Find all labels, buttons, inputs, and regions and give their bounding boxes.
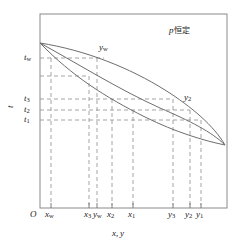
x-tick-label-y2: y2 <box>185 210 192 220</box>
y-tick-label-t1: t1 <box>24 115 30 125</box>
x-tick-sub-x2: 2 <box>111 212 114 219</box>
pressure-constant-note: p恒定 <box>169 26 190 35</box>
x-tick-label-yw: yw <box>93 210 102 220</box>
x-tick-label-xw: xw <box>45 210 54 220</box>
y-tick-sub-t2: 2 <box>27 107 30 114</box>
x-axis-title-y: y <box>120 228 124 238</box>
x-tick-sub-y3: 3 <box>172 212 175 219</box>
y-tick-sub-t3: 3 <box>27 96 30 103</box>
y-tick-label-t3: t3 <box>24 94 30 104</box>
x-tick-label-y1: y1 <box>196 210 203 220</box>
y-axis-title: t <box>6 105 15 108</box>
curve-label-sub-yw: w <box>103 45 108 52</box>
x-tick-sub-y2: 2 <box>189 212 192 219</box>
y-tick-sub-t1: 1 <box>27 117 30 124</box>
x-tick-sub-yw: w <box>97 212 102 219</box>
x-tick-label-x2: x2 <box>107 210 114 220</box>
curve-label-y2: y2 <box>184 93 191 103</box>
curve-label-yw: yw <box>99 43 108 53</box>
x-tick-sub-x3: 3 <box>88 212 91 219</box>
x-tick-label-x1: x1 <box>128 210 135 220</box>
y-tick-sub-tw: w <box>27 55 32 62</box>
x-tick-sub-xw: w <box>49 212 54 219</box>
y-tick-label-tw: tw <box>24 53 31 63</box>
x-tick-label-x3: x3 <box>84 210 91 220</box>
x-axis-title-comma: , <box>116 228 118 238</box>
origin-label-text: O <box>30 209 37 219</box>
horizontal-gridlines <box>40 58 201 120</box>
x-tick-label-y3: y3 <box>168 210 175 220</box>
intermediate-curve <box>40 43 225 145</box>
origin-label: O <box>30 210 37 219</box>
x-axis-ticks <box>51 203 201 208</box>
y-axis-title-text: t <box>5 105 15 108</box>
curve-label-sub-y2: 2 <box>188 95 191 102</box>
x-tick-sub-x1: 1 <box>132 212 135 219</box>
pressure-constant-text: 恒定 <box>174 26 190 35</box>
x-tick-sub-y1: 1 <box>200 212 203 219</box>
x-axis-title: x, y <box>112 229 124 238</box>
